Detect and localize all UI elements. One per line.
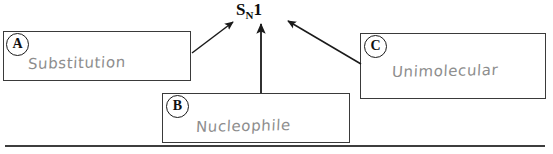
box-label-a: Substitution (27, 53, 126, 73)
diagram-canvas: SN1 A Substitution B Nucleophile C Unimo… (0, 0, 553, 154)
center-node-label: SN1 (236, 0, 262, 25)
box-marker-a: A (6, 33, 29, 56)
box-marker-c: C (364, 35, 387, 58)
arrow-a-to-center (192, 22, 233, 53)
box-marker-b: B (166, 95, 189, 118)
box-label-c: Unimolecular (391, 61, 498, 81)
box-label-b: Nucleophile (195, 116, 291, 136)
bottom-separator-rule (5, 145, 545, 147)
arrow-c-to-center (288, 21, 361, 64)
center-node-suffix: 1 (253, 0, 262, 19)
